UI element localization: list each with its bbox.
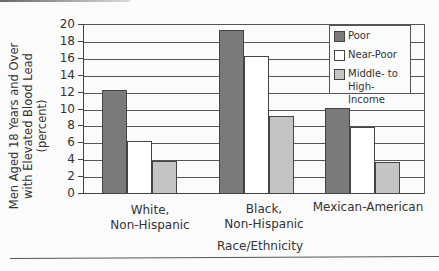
bar-poor-1 — [219, 30, 244, 194]
y-axis — [83, 24, 84, 194]
legend: Poor Near-Poor Middle- to High-Income — [329, 25, 411, 94]
y-tick-label: 12 — [51, 86, 75, 98]
category-label-black: Black, Non-Hispanic — [204, 202, 324, 232]
bar-middle-to-high-income-0 — [152, 161, 177, 194]
legend-label-middle-high: Middle- to High-Income — [348, 67, 406, 106]
bottom-rule — [10, 256, 439, 259]
legend-item-near-poor: Near-Poor — [334, 48, 406, 61]
category-label-white-line-1: White, — [90, 203, 210, 218]
category-label-mexican-american-line-1: Mexican-American — [308, 200, 428, 215]
category-label-mexican-american: Mexican-American — [308, 200, 428, 215]
y-tick-label: 6 — [51, 136, 75, 148]
y-axis-label: Men Aged 18 Years and Over with Elevated… — [7, 36, 49, 216]
legend-swatch-poor — [334, 31, 345, 42]
bar-near-poor-0 — [127, 141, 152, 194]
bar-poor-2 — [325, 108, 350, 194]
bar-poor-0 — [102, 90, 127, 194]
legend-label-poor: Poor — [348, 29, 370, 42]
bar-middle-to-high-income-2 — [375, 162, 400, 194]
bar-near-poor-1 — [244, 56, 269, 194]
legend-label-near-poor: Near-Poor — [348, 48, 397, 61]
y-axis-label-line-1: Men Aged 18 Years and Over — [7, 36, 21, 216]
y-tick-label: 0 — [51, 187, 75, 199]
category-label-black-line-1: Black, — [204, 202, 324, 217]
category-label-black-line-2: Non-Hispanic — [204, 217, 324, 232]
y-tick-label: 16 — [51, 52, 75, 64]
bar-near-poor-2 — [350, 127, 375, 194]
top-rule — [0, 0, 130, 2]
legend-label-middle-high-line-2: High-Income — [348, 81, 385, 105]
y-tick-label: 18 — [51, 35, 75, 47]
y-tick-label: 2 — [51, 170, 75, 182]
y-axis-label-line-3: (percent) — [35, 36, 49, 216]
y-tick-label: 14 — [51, 69, 75, 81]
legend-item-poor: Poor — [334, 29, 406, 42]
y-axis-label-line-2: with Elevated Blood Lead — [21, 36, 35, 216]
y-tick-label: 4 — [51, 153, 75, 165]
y-tick-label: 10 — [51, 103, 75, 115]
legend-label-middle-high-line-1: Middle- to — [348, 68, 398, 79]
category-label-white: White, Non-Hispanic — [90, 203, 210, 233]
y-tick-label: 20 — [51, 18, 75, 30]
category-label-white-line-2: Non-Hispanic — [90, 218, 210, 233]
bar-middle-to-high-income-1 — [269, 116, 294, 194]
legend-swatch-middle-high — [334, 69, 345, 80]
x-axis-label: Race/Ethnicity — [200, 239, 320, 253]
legend-item-middle-high: Middle- to High-Income — [334, 67, 406, 106]
legend-swatch-near-poor — [334, 50, 345, 61]
y-tick-label: 8 — [51, 119, 75, 131]
